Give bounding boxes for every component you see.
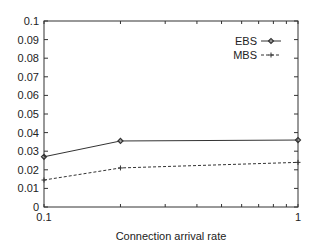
series-line — [44, 162, 298, 180]
y-tick-label: 0.09 — [18, 34, 39, 46]
series-line — [44, 140, 298, 157]
series-group — [42, 138, 301, 183]
x-axis-ticks: 0.11 — [36, 21, 301, 223]
series-mbs — [42, 160, 301, 183]
x-axis-label: Connection arrival rate — [116, 230, 227, 242]
plus-marker — [296, 160, 301, 165]
legend-label: EBS — [235, 35, 257, 47]
y-tick-label: 0.01 — [18, 182, 39, 194]
line-chart: 00.010.020.030.040.050.060.070.080.090.1… — [0, 0, 313, 248]
x-tick-label: 1 — [295, 211, 301, 223]
series-ebs — [42, 138, 301, 160]
y-tick-label: 0.04 — [18, 127, 39, 139]
x-tick-label: 0.1 — [36, 211, 51, 223]
y-tick-label: 0.08 — [18, 52, 39, 64]
plus-marker — [269, 53, 274, 58]
plus-marker — [118, 165, 123, 170]
y-tick-label: 0.05 — [18, 108, 39, 120]
legend-label: MBS — [233, 49, 257, 61]
plus-marker — [42, 178, 47, 183]
y-tick-label: 0.06 — [18, 89, 39, 101]
y-tick-label: 0.1 — [24, 15, 39, 27]
y-tick-label: 0.07 — [18, 71, 39, 83]
legend: EBSMBS — [233, 35, 281, 61]
y-tick-label: 0.03 — [18, 145, 39, 157]
plot-frame — [44, 21, 298, 207]
y-tick-label: 0.02 — [18, 164, 39, 176]
